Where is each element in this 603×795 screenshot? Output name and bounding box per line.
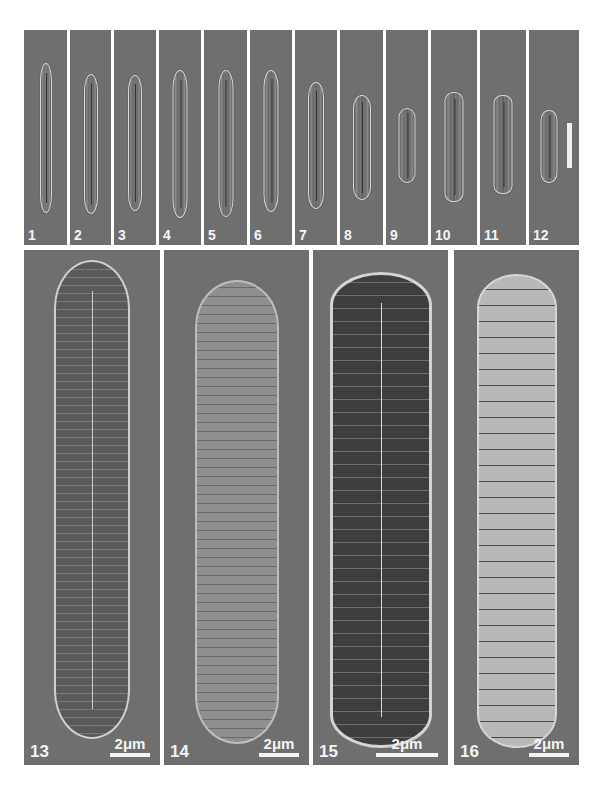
panel-label: 14 [170,745,189,759]
diatom-valve [445,92,464,202]
diatom-valve [264,70,279,212]
lm-panel-4: 4 [159,30,201,245]
sem-panel-15: 15 2μm [313,250,448,765]
panel-label: 7 [299,228,307,242]
lm-panel-9: 9 [386,30,428,245]
panel-label: 2 [74,228,82,242]
diatom-valve-external-view [477,274,557,748]
lm-panel-2: 2 [70,30,111,245]
lm-panel-1: 1 [24,30,67,245]
lm-panel-5: 5 [204,30,247,245]
sem-panel-14: 14 2μm [164,250,309,765]
diatom-valve-external-view [195,280,279,744]
panel-label: 4 [163,228,171,242]
lm-panel-6: 6 [250,30,292,245]
scale-label: 2μm [392,735,423,752]
panel-label: 15 [319,745,338,759]
panel-label: 16 [460,745,479,759]
diatom-valve-internal-view [330,272,432,748]
panel-label: 12 [533,228,549,242]
lm-panel-7: 7 [295,30,337,245]
scale-bar: 2μm [110,735,150,757]
panel-label: 11 [484,228,499,242]
panel-label: 6 [254,228,262,242]
panel-label: 9 [390,228,398,242]
scale-bar: 2μm [259,735,299,757]
diatom-valve [308,82,324,209]
lm-panel-10: 10 [431,30,477,245]
diatom-valve [84,74,98,214]
panel-label: 1 [28,228,36,242]
panel-label: 5 [208,228,216,242]
diatom-valve [541,110,558,183]
diatom-valve [218,70,233,217]
scale-bar [567,123,572,168]
diatom-valve [40,63,52,213]
scale-label: 2μm [264,735,295,752]
sem-panel-13: 13 2μm [24,250,160,765]
diatom-valve [128,75,142,211]
lm-panel-3: 3 [114,30,156,245]
diatom-valve [353,95,371,200]
diatom-valve [173,70,188,218]
panel-label: 3 [118,228,126,242]
lm-panel-8: 8 [340,30,383,245]
scale-bar: 2μm [376,735,438,757]
scale-label: 2μm [115,735,146,752]
sem-panel-16: 16 2μm [454,250,579,765]
panel-label: 10 [435,228,451,242]
diatom-valve [494,95,513,194]
lm-panel-12: 12 [529,30,579,245]
scale-label: 2μm [534,735,565,752]
panel-label: 13 [30,745,49,759]
scale-bar: 2μm [529,735,569,757]
diatom-valve-internal-view [54,260,130,739]
diatom-valve [399,108,416,183]
panel-label: 8 [344,228,352,242]
lm-panel-11: 11 [480,30,526,245]
